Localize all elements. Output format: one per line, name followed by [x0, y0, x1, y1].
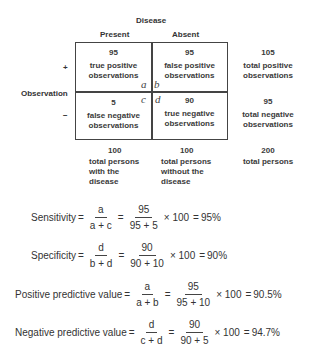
column-total-label: disease [161, 177, 226, 187]
symbolic-fraction: aa + c [90, 204, 112, 231]
column-total-label: total persons [161, 157, 226, 167]
column-total-label: without the [161, 167, 226, 177]
column-total-value: 200 [228, 146, 308, 155]
multiplier: × 100 [214, 327, 239, 338]
numerator: d [146, 319, 158, 333]
numeric-fraction: 9595 + 10 [177, 281, 211, 308]
row-total-label: observations [228, 71, 308, 81]
formula-sensitivity: Sensitivity = aa + c = 9595 + 5 × 100 = … [31, 204, 221, 231]
multiplier: × 100 [164, 212, 189, 223]
equals-sign: = [199, 250, 205, 261]
cell-letter-a: a [141, 78, 147, 90]
table-horizontal-divider [75, 91, 228, 93]
equals-sign: = [124, 289, 130, 300]
cell-letter-b: b [154, 78, 160, 90]
denominator: 95 + 10 [177, 295, 211, 308]
denominator: b + d [90, 256, 113, 269]
column-header-present: Present [100, 30, 129, 39]
equals-sign: = [165, 289, 171, 300]
formula-result: 94.7% [252, 327, 280, 338]
cell-letter-d: d [155, 93, 161, 105]
column-total-label: with the [89, 167, 149, 177]
column-total-label: total persons [89, 157, 149, 167]
cell-label: true positive [76, 61, 151, 71]
symbolic-fraction: db + d [90, 242, 113, 269]
cell-label: false positive [152, 61, 227, 71]
cell-letter-c: c [141, 93, 146, 105]
denominator: 90 + 10 [130, 256, 164, 269]
column-total-value: 100 [89, 146, 149, 155]
symbolic-fraction: dc + d [141, 319, 163, 346]
equals-sign: = [169, 327, 175, 338]
numeric-fraction: 9595 + 5 [130, 204, 158, 231]
numerator: 95 [135, 204, 152, 218]
numeric-fraction: 9090 + 10 [130, 242, 164, 269]
equals-sign: = [245, 289, 251, 300]
equals-sign: = [78, 212, 84, 223]
cell-true-negative: 90 true negative observations [152, 96, 227, 129]
row-total-label: total negative [228, 110, 308, 120]
numerator: a [142, 281, 154, 295]
denominator: a + b [136, 295, 159, 308]
numerator: a [95, 204, 107, 218]
column-total-label: total persons [228, 157, 308, 167]
equals-sign: = [129, 327, 135, 338]
column-total-absent: 100 total persons without the disease [161, 146, 226, 187]
observation-label: Observation [21, 89, 68, 98]
row-total-negative: 95 total negative observations [228, 97, 308, 130]
formula-name: Negative predictive value [15, 327, 127, 338]
row-total-label: total positive [228, 61, 308, 71]
cell-label: false negative [76, 111, 151, 121]
disease-header: Disease [136, 16, 166, 25]
row-total-positive: 105 total positive observations [228, 48, 308, 81]
column-total-value: 100 [161, 146, 226, 155]
column-total-present: 100 total persons with the disease [89, 146, 149, 187]
column-total-all: 200 total persons [228, 146, 308, 167]
formula-negative-predictive-value: Negative predictive value = dc + d = 909… [15, 319, 280, 346]
denominator: 95 + 5 [130, 218, 158, 231]
multiplier: × 100 [216, 289, 241, 300]
cell-false-positive: 95 false positive observations [152, 48, 227, 81]
multiplier: × 100 [170, 250, 195, 261]
cell-value: 95 [152, 48, 227, 57]
column-header-absent: Absent [172, 30, 199, 39]
cell-label: observations [152, 71, 227, 81]
formula-positive-predictive-value: Positive predictive value = aa + b = 959… [15, 281, 282, 308]
cell-label: true negative [152, 109, 227, 119]
row-label-positive: + [63, 63, 68, 72]
cell-value: 95 [76, 48, 151, 57]
row-total-value: 95 [228, 97, 308, 106]
symbolic-fraction: aa + b [136, 281, 159, 308]
numerator: 90 [139, 242, 156, 256]
equals-sign: = [244, 327, 250, 338]
formula-name: Sensitivity [31, 212, 76, 223]
cell-label: observations [76, 121, 151, 131]
denominator: c + d [141, 333, 163, 346]
cell-false-negative: 5 false negative observations [76, 98, 151, 131]
numeric-fraction: 9090 + 5 [180, 319, 208, 346]
row-label-negative: − [63, 111, 68, 120]
equals-sign: = [118, 212, 124, 223]
denominator: 90 + 5 [180, 333, 208, 346]
cell-value: 90 [152, 96, 227, 105]
formula-result: 90% [207, 250, 227, 261]
formula-specificity: Specificity = db + d = 9090 + 10 × 100 =… [31, 242, 227, 269]
cell-label: observations [152, 119, 227, 129]
formula-name: Positive predictive value [15, 289, 122, 300]
cell-label: observations [76, 71, 151, 81]
cell-true-positive: 95 true positive observations [76, 48, 151, 81]
numerator: 90 [186, 319, 203, 333]
column-total-label: disease [89, 177, 149, 187]
denominator: a + c [90, 218, 112, 231]
numerator: 95 [185, 281, 202, 295]
equals-sign: = [118, 250, 124, 261]
formula-name: Specificity [31, 250, 76, 261]
numerator: d [95, 242, 107, 256]
formula-result: 90.5% [253, 289, 281, 300]
formula-result: 95% [201, 212, 221, 223]
equals-sign: = [78, 250, 84, 261]
cell-value: 5 [76, 98, 151, 107]
row-total-label: observations [228, 120, 308, 130]
row-total-value: 105 [228, 48, 308, 57]
equals-sign: = [193, 212, 199, 223]
